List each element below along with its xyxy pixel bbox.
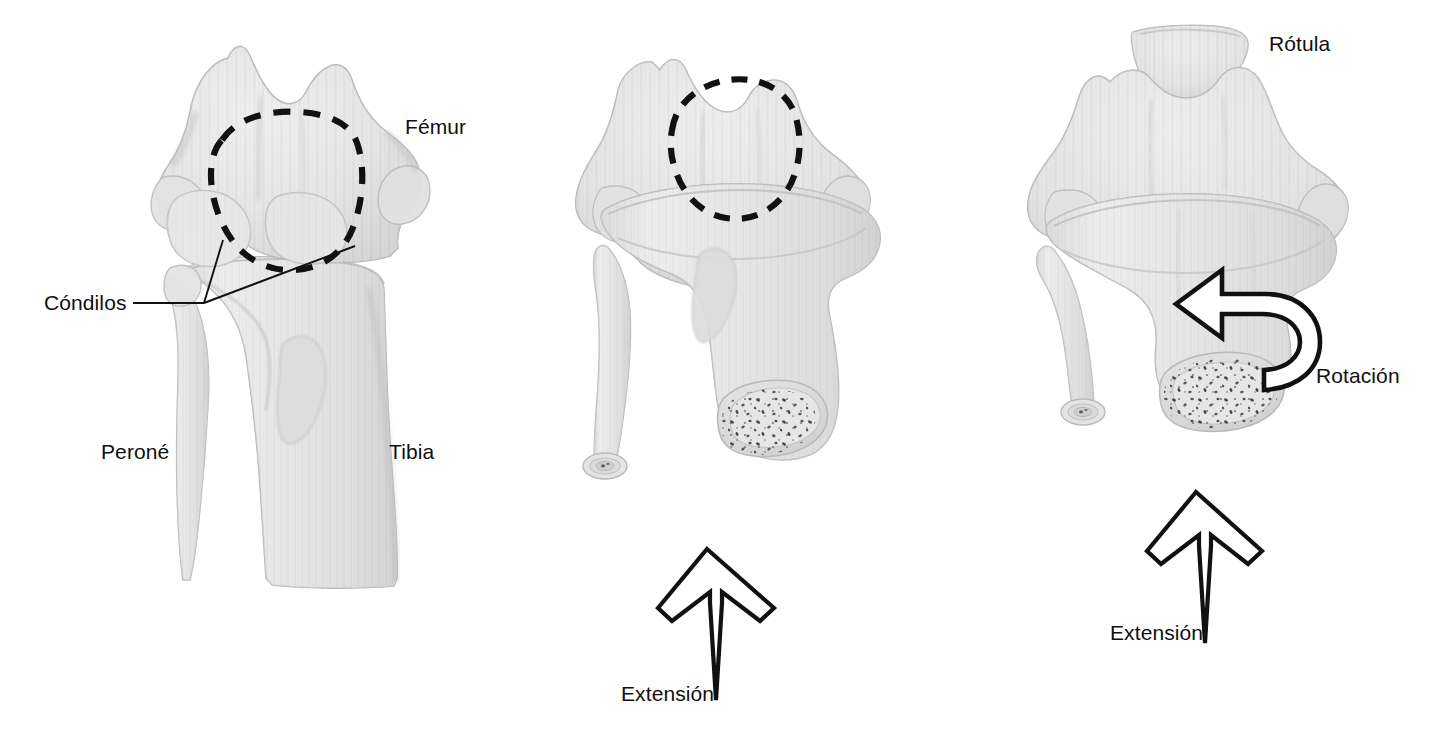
label-rotula: Rótula [1269,33,1330,54]
extension-arrow-middle [658,549,774,700]
tibia-bone [186,257,397,588]
label-condilos: Cóndilos [44,292,127,313]
panel-right-illustration [1028,25,1349,643]
tibia-bone-middle [601,184,880,462]
anatomy-illustration-canvas [0,0,1455,729]
label-perone: Peroné [101,441,169,462]
label-extension-middle: Extensión [621,683,714,704]
fibula-bone [164,265,209,580]
fibula-bone-right [1037,246,1105,425]
fibula-bone-middle [583,246,631,480]
panel-middle-illustration [576,60,881,701]
femur-bone [151,46,430,266]
label-tibia: Tibia [389,441,434,462]
panel-left-illustration [133,46,430,588]
label-rotacion: Rotación [1316,365,1400,386]
label-femur: Fémur [405,116,466,137]
label-extension-right: Extensión [1110,622,1203,643]
knee-anatomy-figure: Fémur Cóndilos Peroné Tibia Extensión Ró… [0,0,1455,729]
